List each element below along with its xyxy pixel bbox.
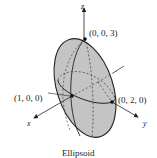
figure-caption: Ellipsoid [62, 148, 95, 158]
label-x-intercept: (1, 0, 0) [14, 93, 43, 103]
ellipsoid-surface [43, 31, 128, 145]
y-axis-label: y [142, 119, 147, 128]
ellipsoid-diagram: z x y (0, 0, 3) (1, 0, 0) (0, 2, 0) Elli… [0, 0, 157, 158]
label-z-intercept: (0, 0, 3) [89, 28, 118, 38]
x-axis-label: x [26, 119, 31, 128]
point-x-intercept [70, 94, 74, 98]
back-axis [113, 66, 124, 73]
point-z-intercept [83, 37, 87, 41]
label-y-intercept: (0, 2, 0) [118, 95, 147, 105]
point-y-intercept [110, 100, 114, 104]
